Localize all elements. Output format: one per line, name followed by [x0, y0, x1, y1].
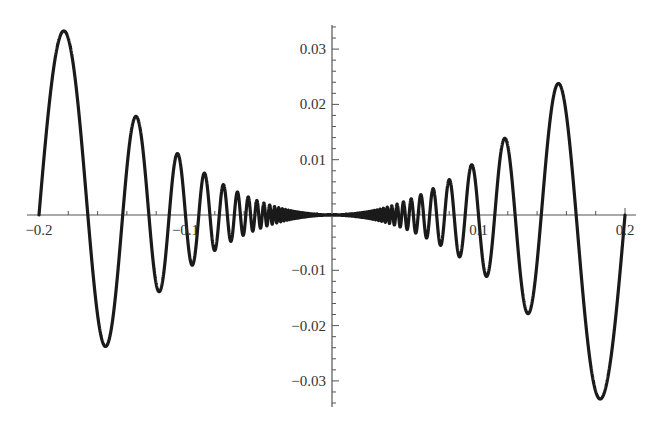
x-tick-labels: −0.2−0.10.10.2: [25, 222, 634, 238]
y-tick-label: 0.03: [300, 41, 326, 57]
y-tick-label: 0.01: [300, 152, 326, 168]
function-plot: −0.2−0.10.10.2 0.030.020.01−0.01−0.02−0.…: [0, 0, 661, 426]
x-tick-label: 0.2: [616, 222, 635, 238]
x-tick-label: −0.2: [25, 222, 52, 238]
y-tick-label: −0.03: [291, 373, 326, 389]
x-tick-label: 0.1: [469, 222, 488, 238]
y-tick-label: −0.01: [291, 262, 326, 278]
y-tick-label: −0.02: [291, 318, 326, 334]
y-tick-label: 0.02: [300, 96, 326, 112]
x-tick-label: −0.1: [172, 222, 199, 238]
